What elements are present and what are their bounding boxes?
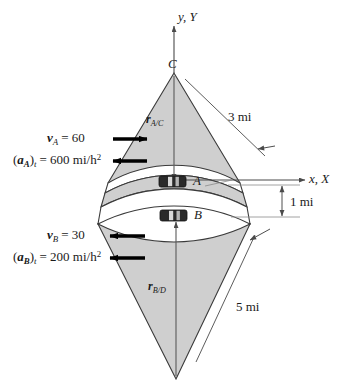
a-a-subscript-t: t: [34, 159, 36, 169]
five-mi-dim-tick: [250, 229, 270, 240]
a-b-label: (aB)t= 200 mi/h2: [13, 250, 101, 266]
a-a-value: = 600 mi/h: [40, 152, 97, 167]
r-bd-label: rB/D: [148, 280, 166, 295]
a-b-subscript-t: t: [34, 256, 36, 266]
v-b-subscript: B: [53, 234, 58, 244]
separation-dimension-label: 1 mi: [290, 195, 313, 208]
point-a-label: A: [193, 174, 201, 187]
x-axis-label: x, X: [309, 172, 329, 185]
kinematics-figure: y, Y x, X C A B rA/C rB/D 3 mi 5 mi 1 mi…: [0, 0, 349, 389]
car-a-glyph: [159, 176, 186, 187]
radius-a-dimension-label: 3 mi: [228, 110, 251, 123]
three-mi-dim-tick: [258, 146, 275, 149]
v-a-subscript: A: [53, 137, 58, 147]
lower-sector-region: [98, 224, 250, 379]
car-b-glyph: [160, 210, 187, 221]
r-bd-subscript: B/D: [153, 286, 166, 295]
point-b-label: B: [194, 208, 202, 221]
point-c-label: C: [168, 57, 177, 70]
v-b-label: vB= 30: [47, 228, 85, 244]
y-axis-label: y, Y: [178, 10, 197, 23]
r-ac-subscript: A/C: [151, 119, 164, 128]
v-a-value: = 60: [61, 130, 85, 145]
a-b-value: = 200 mi/h: [40, 249, 97, 264]
v-a-label: vA= 60: [47, 131, 85, 147]
a-a-label: (aA)t= 600 mi/h2: [13, 153, 101, 169]
radius-b-dimension-label: 5 mi: [236, 300, 259, 313]
r-ac-label: rA/C: [146, 113, 163, 128]
a-b-exponent: 2: [97, 249, 101, 259]
a-a-exponent: 2: [97, 152, 101, 162]
lower-gray-wedge: [98, 224, 250, 379]
v-b-value: = 30: [61, 227, 85, 242]
